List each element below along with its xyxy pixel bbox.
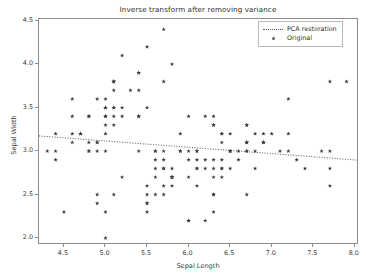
x-tick-mark	[354, 244, 355, 247]
x-tick-mark	[312, 244, 313, 247]
y-axis-label: Sepal Width	[10, 105, 18, 165]
chart-legend: PCA restoration Original	[258, 21, 343, 47]
x-tick-label: 7.5	[307, 249, 317, 257]
x-tick-mark	[188, 244, 189, 247]
y-tick-mark	[35, 237, 38, 238]
x-tick-mark	[104, 244, 105, 247]
plot-canvas	[39, 19, 358, 244]
x-tick-label: 7.0	[266, 249, 276, 257]
x-tick-mark	[63, 244, 64, 247]
chart-title: Inverse transform after removing varianc…	[38, 5, 358, 14]
y-tick-mark	[35, 107, 38, 108]
y-tick-mark	[35, 63, 38, 64]
x-tick-mark	[229, 244, 230, 247]
x-tick-label: 4.5	[58, 249, 68, 257]
y-tick-mark	[35, 20, 38, 21]
legend-label-pca-restoration: PCA restoration	[287, 25, 337, 34]
legend-item-original: Original	[263, 34, 337, 43]
legend-label-original: Original	[287, 34, 312, 43]
x-tick-label: 6.5	[224, 249, 234, 257]
y-tick-label: 4.0	[10, 59, 33, 67]
star-marker-icon	[263, 34, 283, 43]
x-tick-label: 5.5	[141, 249, 151, 257]
plot-area	[38, 18, 358, 244]
y-tick-label: 2.5	[10, 190, 33, 198]
x-tick-label: 6.0	[183, 249, 193, 257]
series-original-points	[45, 27, 349, 240]
star-glyph	[271, 36, 276, 41]
x-tick-mark	[146, 244, 147, 247]
x-tick-label: 8.0	[349, 249, 359, 257]
series-pca-restoration-line	[39, 136, 358, 160]
dotted-line-icon	[263, 25, 283, 34]
chart-figure: Inverse transform after removing varianc…	[0, 0, 366, 278]
y-tick-label: 2.0	[10, 233, 33, 241]
y-tick-mark	[35, 150, 38, 151]
y-tick-mark	[35, 194, 38, 195]
y-tick-label: 4.5	[10, 16, 33, 24]
x-tick-label: 5.0	[99, 249, 109, 257]
x-axis-label: Sepal Length	[38, 262, 358, 270]
legend-item-pca-restoration: PCA restoration	[263, 25, 337, 34]
x-tick-mark	[271, 244, 272, 247]
